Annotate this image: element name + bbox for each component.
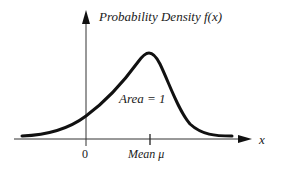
diagram-canvas (0, 0, 281, 169)
x-axis-label: x (259, 132, 265, 148)
y-axis-label: Probability Density f(x) (99, 9, 222, 25)
area-annotation: Area = 1 (119, 91, 166, 107)
y-axis-arrow-icon (82, 10, 90, 24)
x-axis-arrow-icon (238, 135, 252, 143)
density-diagram: Probability Density f(x) Area = 1 x 0 Me… (0, 0, 281, 169)
mean-tick-label: Mean μ (128, 147, 164, 162)
origin-tick-label: 0 (82, 147, 88, 162)
